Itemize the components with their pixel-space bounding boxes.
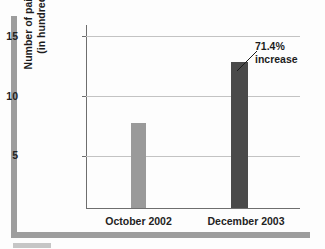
- bar-october-2002: [131, 123, 146, 208]
- y-tick-label-15: 15: [0, 31, 18, 42]
- gridline-15: [86, 36, 300, 37]
- y-tick-mark-10: [82, 96, 86, 97]
- x-category-label-0: October 2002: [86, 215, 191, 227]
- y-axis-title-line2: (in hundred thousands): [35, 0, 48, 70]
- frame-left-bar: [11, 16, 17, 238]
- y-axis-line: [86, 25, 87, 208]
- annotation-callout: 71.4% increase: [255, 40, 298, 65]
- gridline-5: [86, 156, 300, 157]
- bar-december-2003: [231, 62, 248, 208]
- gridline-10: [86, 96, 300, 97]
- chart-figure: Number of paid subscriptions (in hundred…: [0, 0, 325, 249]
- y-tick-label-10: 10: [0, 91, 18, 102]
- annotation-percent: 71.4%: [255, 40, 285, 52]
- x-category-label-1: December 2003: [186, 215, 306, 227]
- y-tick-label-5: 5: [0, 150, 18, 161]
- x-axis-line: [86, 208, 300, 209]
- y-tick-mark-5: [82, 156, 86, 157]
- frame-corner-tab: [13, 243, 51, 248]
- y-axis-title-line1: Number of paid subscriptions: [22, 0, 34, 69]
- y-tick-mark-15: [82, 36, 86, 37]
- annotation-word: increase: [255, 53, 298, 66]
- y-axis-title: Number of paid subscriptions (in hundred…: [22, 0, 52, 70]
- frame-bottom-bar: [11, 232, 310, 238]
